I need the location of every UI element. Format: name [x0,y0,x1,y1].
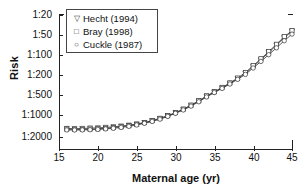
triangle-down-marker: ▽ [70,14,83,23]
risk-vs-maternal-age-chart: Risk Maternal age (yr) 1:20 1:50 1:100 1… [0,0,308,193]
legend-label-bray: Bray (1998) [83,26,133,37]
circle-marker: ○ [70,40,83,49]
square-marker: □ [70,27,83,36]
legend-item-hecht: ▽ Hecht (1994) [70,12,154,25]
legend-label-hecht: Hecht (1994) [83,13,138,24]
legend-item-cuckle: ○ Cuckle (1987) [70,38,154,51]
legend-label-cuckle: Cuckle (1987) [83,39,142,50]
legend: ▽ Hecht (1994) □ Bray (1998) ○ Cuckle (1… [66,9,158,53]
legend-item-bray: □ Bray (1998) [70,25,154,38]
